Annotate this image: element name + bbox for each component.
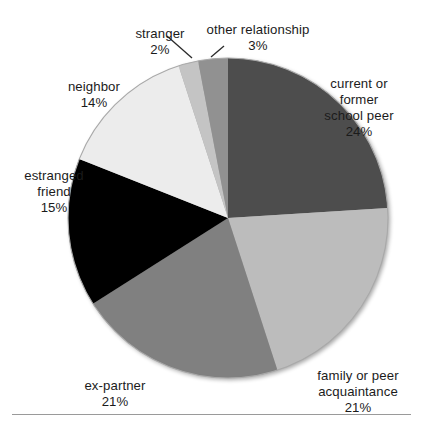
- slice-label-other-relationship-percent: 3%: [188, 38, 328, 54]
- slice-label-ex-partner-percent: 21%: [54, 394, 176, 410]
- slice-label-stranger-name: stranger: [135, 26, 184, 41]
- bottom-divider: [12, 414, 411, 415]
- slice-label-estranged-friend: estranged friend 15%: [2, 152, 106, 232]
- slice-label-ex-partner: ex-partner 21%: [54, 362, 176, 425]
- slice-label-other-relationship-name: other relationship: [207, 22, 310, 37]
- slice-label-neighbor-name: neighbor: [68, 79, 120, 94]
- slice-label-estranged-friend-percent: 15%: [2, 200, 106, 216]
- pie-chart-figure: current or former school peer 24% family…: [0, 0, 423, 425]
- slice-label-family-peer-name: family or peer acquaintance: [317, 368, 398, 399]
- slice-label-school-peer: current or former school peer 24%: [300, 60, 418, 157]
- slice-label-other-relationship: other relationship 3%: [188, 6, 328, 70]
- slice-label-neighbor-percent: 14%: [42, 95, 146, 111]
- slice-label-school-peer-percent: 24%: [300, 124, 418, 140]
- slice-label-estranged-friend-name: estranged friend: [24, 168, 84, 199]
- slice-label-ex-partner-name: ex-partner: [84, 378, 145, 393]
- slice-label-school-peer-name: current or former school peer: [324, 76, 393, 123]
